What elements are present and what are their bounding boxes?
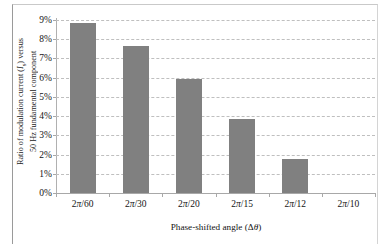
x-axis-tick-label: 2π/12: [268, 199, 322, 210]
x-axis-tick-label: 2π/10: [321, 199, 375, 210]
y-axis-tick-label: 7%: [22, 53, 52, 63]
gridline: [56, 135, 375, 136]
y-axis-tick-mark: [53, 78, 56, 79]
bar: [123, 46, 149, 193]
x-axis-tick-mark: [269, 193, 270, 197]
x-axis-tick-mark: [109, 193, 110, 197]
y-axis-tick-mark: [53, 58, 56, 59]
x-axis-tick-mark: [56, 193, 57, 197]
chart-figure: Ratio of modulation current (Is) versus …: [0, 0, 384, 250]
y-axis-tick-label: 8%: [22, 34, 52, 44]
y-axis-tick-mark: [53, 20, 56, 21]
pi-symbol: π: [289, 199, 294, 209]
bar: [70, 23, 96, 193]
x-axis-tick-mark: [216, 193, 217, 197]
bar: [282, 159, 308, 193]
x-axis-tick-mark: [322, 193, 323, 197]
x-axis-tick-mark: [375, 193, 376, 197]
y-axis-tick-label: 3%: [22, 130, 52, 140]
y-axis-tick-label: 2%: [22, 150, 52, 160]
gridline: [56, 155, 375, 156]
x-axis-tick-label: 2π/60: [56, 199, 110, 210]
y-axis-tick-label: 0%: [22, 188, 52, 198]
y-axis-tick-mark: [53, 116, 56, 117]
y-axis-tick-mark: [53, 39, 56, 40]
y-axis-tick-label: 9%: [22, 15, 52, 25]
gridline: [56, 116, 375, 117]
x-axis-tick-label: 2π/20: [162, 199, 216, 210]
y-axis-tick-label: 6%: [22, 73, 52, 83]
pi-symbol: π: [130, 199, 135, 209]
y-axis-tick-mark: [53, 97, 56, 98]
pi-symbol: π: [183, 199, 188, 209]
y-axis-tick-mark: [53, 155, 56, 156]
plot-area: [56, 20, 375, 193]
x-axis-title: Phase-shifted angle (Δθ): [56, 222, 376, 233]
gridline: [56, 97, 375, 98]
y-axis-tick-label: 5%: [22, 92, 52, 102]
gridline: [56, 78, 375, 79]
x-axis-tick-mark: [162, 193, 163, 197]
bar: [229, 119, 255, 193]
gridline: [56, 174, 375, 175]
bar: [176, 79, 202, 193]
gridline: [56, 39, 375, 40]
gridline: [56, 58, 375, 59]
y-axis-tick-labels: 9%8%7%6%5%4%3%2%1%0%: [0, 0, 54, 250]
x-axis-tick-label: 2π/30: [109, 199, 163, 210]
y-axis-tick-mark: [53, 135, 56, 136]
y-axis-tick-label: 1%: [22, 169, 52, 179]
y-axis-tick-label: 4%: [22, 111, 52, 121]
pi-symbol: π: [342, 199, 347, 209]
pi-symbol: π: [77, 199, 82, 209]
x-axis-title-pre: Phase-shifted angle (Δ: [171, 222, 254, 232]
x-axis-tick-label: 2π/15: [215, 199, 269, 210]
pi-symbol: π: [236, 199, 241, 209]
gridline: [56, 20, 375, 21]
y-axis-tick-mark: [53, 174, 56, 175]
x-axis-title-post: ): [258, 222, 261, 232]
